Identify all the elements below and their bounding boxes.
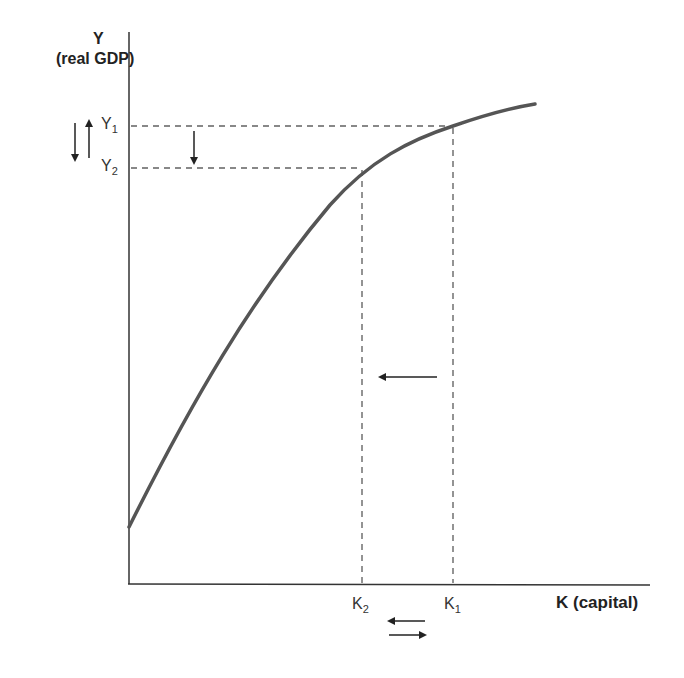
k1-label: K1 [444, 595, 461, 615]
k2-label: K2 [352, 595, 369, 615]
y1-label: Y1 [101, 115, 118, 135]
y1-label-main: Y [101, 115, 112, 132]
y2-label-main: Y [101, 157, 112, 174]
x-axis-title: K (capital) [556, 593, 638, 613]
k2-label-main: K [352, 595, 363, 612]
y2-label-sub: 2 [112, 165, 118, 177]
k1-label-main: K [444, 595, 455, 612]
production-function-diagram [0, 0, 684, 678]
k1-label-sub: 1 [455, 603, 461, 615]
y-axis-title: Y [93, 30, 104, 48]
x-axis-title-main: K (capital) [556, 593, 638, 612]
y2-label: Y2 [101, 157, 118, 177]
y-axis-subtitle: (real GDP) [56, 50, 134, 68]
x-axis [128, 584, 650, 585]
y1-label-sub: 1 [112, 123, 118, 135]
k2-label-sub: 2 [363, 603, 369, 615]
